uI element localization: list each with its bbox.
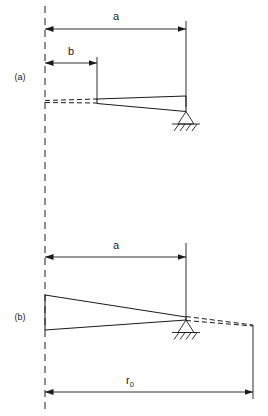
pin-support-b-hatch-1	[174, 333, 179, 340]
pin-support-b-triangle	[178, 320, 194, 333]
pin-support-a-hatch-3	[186, 124, 191, 131]
pin-support-b-hatch-3	[186, 333, 191, 340]
pin-support-b-hatch-4	[192, 333, 197, 340]
beam-a-dashed-extension-lower	[45, 103, 97, 104]
dimension-label-a-bottom: a	[113, 239, 120, 251]
pin-support-a-hatch-1	[174, 124, 179, 131]
dimension-label-b-top: b	[68, 45, 74, 57]
dimension-label-a-top: a	[113, 10, 120, 22]
dimension-label-r0: r0	[126, 374, 134, 389]
panel-label-b: (b)	[15, 312, 26, 322]
pin-support-a-hatch-4	[192, 124, 197, 131]
panel-b: a r0 (b)	[15, 239, 254, 399]
beam-a-outline	[97, 96, 186, 112]
pin-support-b-hatch-2	[180, 333, 185, 340]
pin-support-a-hatch-2	[180, 124, 185, 131]
panel-a: a b (a)	[15, 10, 201, 131]
beam-b-outline	[45, 295, 186, 330]
beam-a-dashed-extension-upper	[45, 99, 97, 101]
pin-support-a-triangle	[178, 112, 194, 125]
panel-label-a: (a)	[15, 72, 26, 82]
beam-diagram-svg: a b (a) a	[0, 0, 268, 416]
dimension-label-r0-subscript: 0	[130, 380, 134, 389]
figure-container: a b (a) a	[0, 0, 268, 416]
